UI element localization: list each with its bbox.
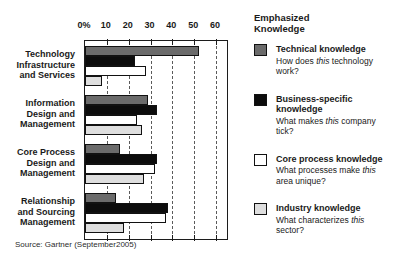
x-tick-label: 40 — [166, 20, 176, 30]
x-tick-label: 20 — [123, 20, 133, 30]
legend-title: Emphasized Knowledge — [254, 12, 336, 34]
legend-items: Technical knowledgeHow does this technol… — [254, 44, 394, 236]
bar — [85, 174, 144, 184]
italic-word: this — [326, 116, 339, 126]
bar — [85, 46, 199, 56]
bar — [85, 66, 146, 76]
category-label-line: Design and — [26, 158, 75, 169]
italic-word: this — [362, 165, 375, 175]
category-label-line: Relationship — [21, 196, 75, 207]
category-label-line: Design and — [26, 109, 75, 120]
category-labels: TechnologyInfrastructureand ServicesInfo… — [0, 40, 80, 238]
legend-swatch — [254, 154, 267, 166]
bar — [85, 154, 157, 164]
bar — [85, 213, 166, 223]
bar-groups — [85, 41, 227, 239]
x-axis-tick-labels: 0%102030405060 — [84, 20, 226, 32]
bar — [85, 223, 124, 233]
legend-item-description: How does this technologywork? — [276, 56, 394, 77]
bar — [85, 115, 137, 125]
legend-desc-line: What characterizes this — [276, 215, 394, 226]
legend-item: Industry knowledgeWhat characterizes thi… — [254, 203, 394, 236]
category-label-line: Core Process — [17, 147, 75, 158]
legend-item-title: Business-specificknowledge — [276, 94, 394, 115]
legend-text: Technical knowledgeHow does this technol… — [276, 44, 394, 77]
legend-text: Core process knowledgeWhat processes mak… — [276, 154, 394, 187]
legend-desc-line: What processes make this — [276, 165, 394, 176]
category-label-line: Management — [20, 168, 75, 179]
category-label-line: Information — [26, 98, 76, 109]
x-tick-label: 50 — [188, 20, 198, 30]
category-label-line: and Services — [19, 70, 75, 81]
bar — [85, 193, 116, 203]
bar — [85, 144, 120, 154]
legend-swatch — [254, 44, 267, 56]
legend-item-title-line: knowledge — [276, 104, 394, 115]
category-label-line: Management — [20, 217, 75, 228]
legend-desc-line: How does this technology — [276, 56, 394, 67]
plot-area — [84, 40, 228, 240]
bar-group — [85, 46, 227, 86]
bar-group — [85, 144, 227, 184]
x-tick-label: 60 — [210, 20, 220, 30]
category-label: InformationDesign andManagement — [0, 94, 80, 134]
legend-item: Technical knowledgeHow does this technol… — [254, 44, 394, 77]
legend-item-description: What makes this companytick? — [276, 116, 394, 137]
legend-item-title: Industry knowledge — [276, 203, 394, 214]
legend-text: Business-specificknowledgeWhat makes thi… — [276, 94, 394, 137]
legend-item-title-line: Core process knowledge — [276, 154, 394, 165]
category-label-line: and Sourcing — [17, 207, 75, 218]
legend-desc-line: area unique? — [276, 176, 394, 187]
bar — [85, 95, 148, 105]
legend-desc-line: sector? — [276, 225, 394, 236]
legend-item-title: Technical knowledge — [276, 44, 394, 55]
legend-swatch — [254, 203, 267, 215]
category-label-line: Infrastructure — [16, 60, 75, 71]
legend-text: Industry knowledgeWhat characterizes thi… — [276, 203, 394, 236]
legend-desc-line: work? — [276, 66, 394, 77]
legend-item-title-line: Business-specific — [276, 94, 394, 105]
legend-item-title-line: Industry knowledge — [276, 203, 394, 214]
bar — [85, 105, 157, 115]
legend-item: Business-specificknowledgeWhat makes thi… — [254, 94, 394, 137]
legend: Emphasized Knowledge Technical knowledge… — [254, 12, 394, 253]
legend-item: Core process knowledgeWhat processes mak… — [254, 154, 394, 187]
category-label: TechnologyInfrastructureand Services — [0, 45, 80, 85]
category-label: Relationshipand SourcingManagement — [0, 192, 80, 232]
category-label-line: Management — [20, 119, 75, 130]
bar — [85, 125, 142, 135]
legend-swatch — [254, 94, 267, 106]
bar — [85, 56, 135, 66]
category-label-line: Technology — [25, 49, 75, 60]
source-note: Source: Gartner (September2005) — [15, 240, 136, 249]
bar-group — [85, 95, 227, 135]
x-tick-label: 30 — [145, 20, 155, 30]
bar — [85, 76, 102, 86]
italic-word: this — [351, 215, 364, 225]
legend-item-title-line: Technical knowledge — [276, 44, 394, 55]
x-tick-label: 0% — [77, 20, 90, 30]
legend-desc-line: What makes this company — [276, 116, 394, 127]
bar — [85, 203, 168, 213]
legend-item-description: What characterizes thissector? — [276, 215, 394, 236]
category-label: Core ProcessDesign andManagement — [0, 143, 80, 183]
bar-group — [85, 193, 227, 233]
legend-desc-line: tick? — [276, 126, 394, 137]
chart-figure: 0%102030405060 TechnologyInfrastructurea… — [0, 0, 396, 261]
x-tick-label: 10 — [101, 20, 111, 30]
legend-item-description: What processes make thisarea unique? — [276, 165, 394, 186]
italic-word: this — [316, 56, 329, 66]
legend-item-title: Core process knowledge — [276, 154, 394, 165]
bar — [85, 164, 155, 174]
